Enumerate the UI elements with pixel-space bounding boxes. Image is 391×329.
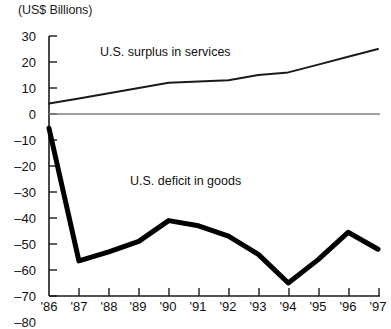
- line-chart: (US$ Billions) 30 20 10 0 –10 –20 –30 –4…: [0, 0, 391, 329]
- plot-area: [0, 0, 391, 329]
- series-line-surplus: [49, 49, 378, 104]
- series-line-deficit: [49, 128, 378, 283]
- x-axis-ticks: [79, 288, 379, 296]
